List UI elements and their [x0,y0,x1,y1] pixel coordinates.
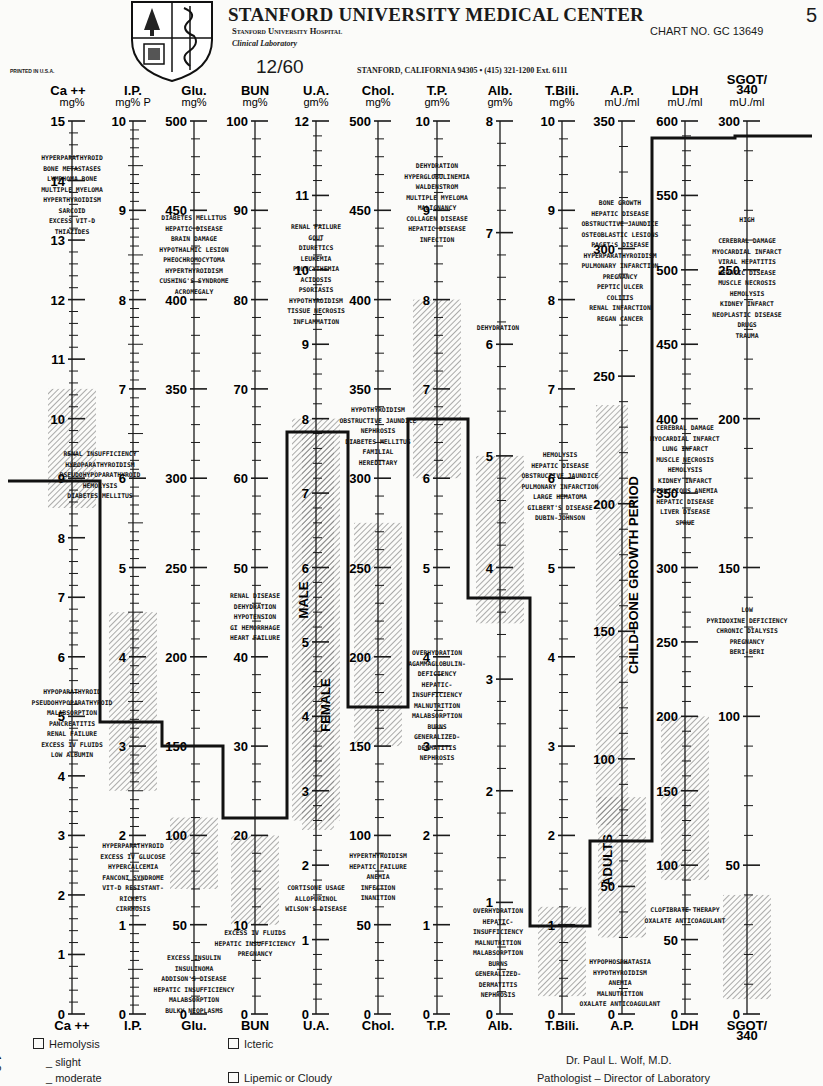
tick-label: 2 [302,858,309,873]
tick-label: 5 [423,561,430,576]
annotation-text: HEPATIC DISEASE [591,210,649,218]
tick-label: 0 [302,1007,309,1022]
tick-label: 200 [718,412,740,427]
tick-label: 150 [656,784,678,799]
annotation-text: MALABSORPTION [169,996,219,1004]
annotation-text: RENAL DISEASE [230,592,280,600]
tick-label: 5 [119,561,126,576]
tick-label: 7 [302,486,309,501]
annotation-text: ACROMEGALY [175,288,214,296]
annotation-text: HEPATIC INSUFFICIENCY [154,986,235,994]
tick-label: 250 [165,561,187,576]
tick-label: 5 [302,635,309,650]
tick-label: 150 [718,561,740,576]
annotation-text: GOUT [308,234,324,242]
icteric-checkbox[interactable]: Icteric [228,1038,273,1050]
tick-label: 400 [349,293,371,308]
tick-label: 450 [349,203,371,218]
tick-label: 3 [486,672,493,687]
tick-label: 250 [593,369,615,384]
tick-label: 300 [656,561,678,576]
annotation-text: CEREBRAL DAMAGE [718,237,776,245]
checkbox-icon[interactable] [228,1038,239,1049]
tick-label: 11 [51,352,65,367]
annotation-text: HEPATIC INSUFFICIENCY [215,940,296,948]
checkbox-icon[interactable] [33,1038,44,1049]
tick-label: 50 [234,561,248,576]
tick-label: 500 [349,114,371,129]
tick-label: 5 [486,449,493,464]
hemolysis-checkbox[interactable]: Hemolysis [33,1038,100,1050]
annotation-text: INFECTION [361,884,396,892]
checkbox-icon[interactable] [228,1072,239,1083]
annotation-text: SPRUE [675,519,694,527]
annotation-text: PSEUDOHYPOPARATHYROID [60,471,141,479]
annotation-text: MALABSORPTION [473,949,523,957]
axis-unit: mg% [549,96,574,108]
moderate-option: _ moderate [46,1072,102,1084]
tick-label: 10 [541,114,555,129]
axis-footer: 340 [736,1028,758,1043]
annotation-text: HYPOTHYROIDISM [351,406,405,414]
annotation-text: NEPHROSIS [420,754,455,762]
band-label: CHILD-BONE GROWTH PERIOD [626,476,641,674]
annotation-text: PHEOCHROMOCYTOMA [163,256,225,264]
annotation-text: ALLOPURINOL [295,895,337,903]
slight-option: _ slight [46,1056,81,1068]
lipemic-checkbox[interactable]: Lipemic or Cloudy [228,1072,332,1084]
tick-label: 450 [656,337,678,352]
annotation-text: OBSTRUCTIVE JAUNDICE [340,417,417,425]
annotation-text: INFLAMMATION [293,318,339,326]
annotation-text: LUNG INFARCT [662,445,708,453]
tick-label: 350 [593,114,615,129]
annotation-text: DIABETES MELLITUS [345,438,411,446]
annotation-text: MYOCARDIAL INFARCT [712,248,781,256]
annotation-text: HEPATIC DISEASE [408,225,466,233]
tick-label: 0 [548,1007,555,1022]
tick-label: 3 [119,739,126,754]
annotation-text: PERNICIOUS ANEMIA [652,487,718,495]
annotation-text: HYPOTHYROIDISM [593,969,647,977]
axis-unit: mU./ml [668,96,703,108]
tick-label: 90 [234,203,248,218]
annotation-text: BERI-BERI [730,648,765,656]
tick-label: 0 [364,1007,371,1022]
annotation-text: OXALATE ANTICOAGULANT [580,1000,661,1008]
doctor-title: Pathologist – Director of Laboratory [537,1072,710,1084]
annotation-text: FANCONI SYNDROME [102,874,164,882]
tick-label: 50 [664,933,678,948]
tick-label: 350 [349,382,371,397]
annotation-text: GENERALIZED- [475,970,521,978]
tick-label: 550 [656,188,678,203]
annotation-text: GILBERT'S DISEASE [527,504,593,512]
annotation-text: MALNUTRITION [414,702,460,710]
tick-label: 50 [357,918,371,933]
annotation-text: DEHYDRATION [416,162,458,170]
annotation-text: MULTIPLE MYELOMA [406,194,468,202]
annotation-text: TISSUE NECROSIS [287,307,345,315]
annotation-text: HYPERTHYROIDISM [43,196,101,204]
tick-label: 0 [58,1007,65,1022]
tick-label: 100 [349,828,371,843]
disease-annotations: HYPERPARATHYROIDBONE METASTASESLYMPHOMA … [32,154,788,1015]
annotation-text: HIGH [739,216,755,224]
annotation-text: COLLAGEN DISEASE [406,215,468,223]
annotation-text: COLITIS [607,294,634,302]
tick-label: 3 [302,784,309,799]
annotation-text: BONE GROWTH [599,199,641,207]
tick-label: 7 [548,382,555,397]
annotation-text: ANEMIA [366,873,389,881]
annotation-text: MALNUTRITION [475,939,521,947]
tick-label: 1 [423,918,430,933]
tick-label: 0 [423,1007,430,1022]
annotation-text: INSUFFICIENCY [473,928,523,936]
axis-unit: mg% P [115,96,150,108]
tick-label: 500 [165,114,187,129]
tick-label: 8 [302,412,309,427]
tick-label: 300 [165,471,187,486]
annotation-text: EXCESS INSULIN [167,954,221,962]
annotation-text: HYPOPHOSPHATASIA [589,958,651,966]
annotation-text: CORTISONE USAGE [287,884,345,892]
tick-label: 2 [548,828,555,843]
annotation-text: KIDNEY INFARCT [658,477,712,485]
